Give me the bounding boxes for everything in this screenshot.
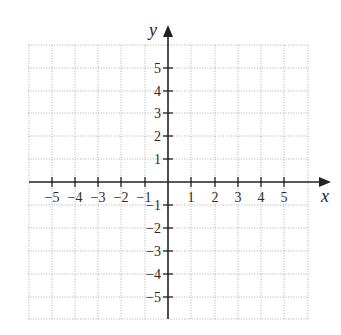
- y-tick-label: −5: [146, 290, 161, 305]
- y-tick-label: 1: [154, 152, 161, 167]
- y-axis-arrow-icon: [163, 25, 173, 37]
- y-tick-label: 4: [154, 84, 161, 99]
- y-tick-label: −4: [146, 267, 161, 282]
- x-tick-label: 1: [188, 190, 195, 205]
- x-tick-label: 2: [212, 190, 219, 205]
- x-axis: −5 −4 −3 −2 −1 1 2 3 4 5 x: [29, 177, 331, 206]
- y-tick-label: −3: [146, 244, 161, 259]
- y-tick-label: 2: [154, 129, 161, 144]
- x-tick-label: −4: [68, 190, 83, 205]
- x-tick-label: 4: [258, 190, 265, 205]
- x-tick-label: −3: [91, 190, 106, 205]
- y-tick-label: 3: [154, 106, 161, 121]
- x-tick-label: 5: [281, 190, 288, 205]
- x-tick-label: 3: [235, 190, 242, 205]
- y-tick-label: −2: [146, 221, 161, 236]
- x-tick-label: −5: [45, 190, 60, 205]
- y-axis: 5 4 3 2 1 −1 −2 −3 −4 −5 y: [146, 20, 173, 319]
- x-axis-label: x: [320, 186, 329, 206]
- y-tick-label: 5: [154, 61, 161, 76]
- y-axis-label: y: [147, 20, 157, 40]
- y-tick-label: −1: [146, 198, 161, 213]
- coordinate-plane: −5 −4 −3 −2 −1 1 2 3 4 5 x 5 4 3 2 1 −1 …: [0, 0, 341, 335]
- x-tick-label: −2: [114, 190, 129, 205]
